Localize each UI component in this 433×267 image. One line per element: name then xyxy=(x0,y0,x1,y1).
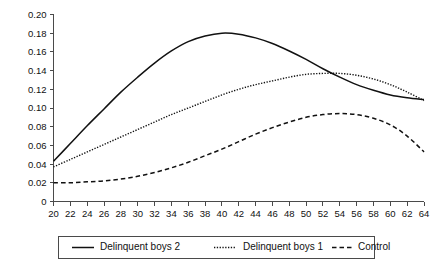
line-chart: 00.020.040.060.080.100.120.140.160.180.2… xyxy=(0,0,433,267)
legend-label-1: Delinquent boys 2 xyxy=(100,241,180,252)
y-tick-label: 0.14 xyxy=(28,65,47,76)
y-tick-label: 0.10 xyxy=(28,102,47,113)
x-tick-label: 60 xyxy=(385,208,396,219)
y-tick-label: 0.12 xyxy=(28,84,47,95)
x-tick-label: 46 xyxy=(267,208,278,219)
legend-label-2: Delinquent boys 1 xyxy=(243,241,323,252)
chart-legend: Delinquent boys 2Delinquent boys 1Contro… xyxy=(59,237,391,259)
y-tick-label: 0.16 xyxy=(28,46,47,57)
y-tick-label: 0.02 xyxy=(28,177,47,188)
series-line-3 xyxy=(54,114,425,183)
x-tick-label: 64 xyxy=(419,208,430,219)
x-tick-label: 32 xyxy=(149,208,160,219)
series-line-2 xyxy=(54,73,425,167)
x-tick-label: 42 xyxy=(233,208,244,219)
x-tick-label: 28 xyxy=(116,208,127,219)
x-tick-label: 30 xyxy=(132,208,143,219)
x-tick-label: 40 xyxy=(217,208,228,219)
x-tick-label: 44 xyxy=(250,208,261,219)
x-tick-label: 54 xyxy=(335,208,346,219)
legend-label-3: Control xyxy=(358,241,390,252)
series-lines xyxy=(54,33,425,183)
x-tick-label: 56 xyxy=(351,208,362,219)
y-axis: 00.020.040.060.080.100.120.140.160.180.2… xyxy=(28,9,54,207)
y-tick-label: 0 xyxy=(41,196,46,207)
y-tick-label: 0.18 xyxy=(28,28,47,39)
x-tick-label: 34 xyxy=(166,208,177,219)
x-tick-label: 62 xyxy=(402,208,413,219)
x-tick-label: 36 xyxy=(183,208,194,219)
x-axis: 2022242628303234363840424446485052545658… xyxy=(48,202,429,219)
y-tick-label: 0.06 xyxy=(28,140,47,151)
x-tick-label: 52 xyxy=(318,208,329,219)
chart-canvas: 00.020.040.060.080.100.120.140.160.180.2… xyxy=(0,0,433,267)
x-tick-label: 26 xyxy=(99,208,110,219)
x-tick-label: 24 xyxy=(82,208,93,219)
x-tick-label: 58 xyxy=(368,208,379,219)
x-tick-label: 20 xyxy=(48,208,59,219)
y-tick-label: 0.04 xyxy=(28,159,47,170)
x-tick-label: 38 xyxy=(200,208,211,219)
y-tick-label: 0.20 xyxy=(28,9,47,20)
x-tick-label: 48 xyxy=(284,208,295,219)
y-tick-label: 0.08 xyxy=(28,121,47,132)
x-tick-label: 50 xyxy=(301,208,312,219)
x-tick-label: 22 xyxy=(65,208,76,219)
